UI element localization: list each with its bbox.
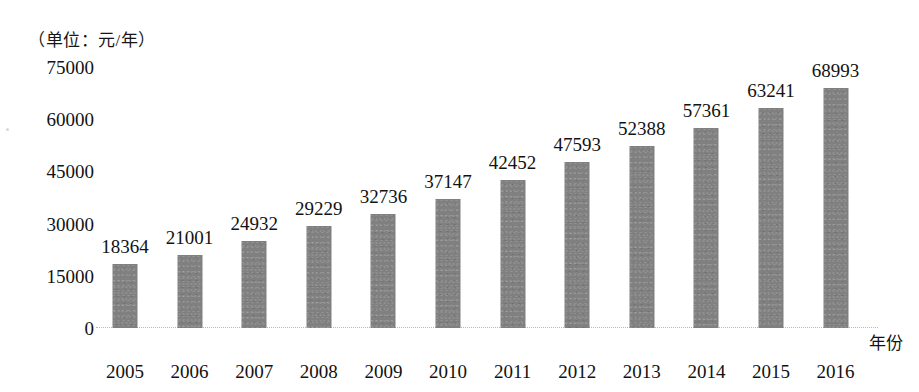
bar bbox=[242, 241, 267, 328]
bar-value-label: 37147 bbox=[424, 172, 472, 191]
scan-artifact bbox=[6, 128, 9, 131]
bar-group: 689932016 bbox=[804, 28, 868, 328]
bar-value-label: 52388 bbox=[618, 119, 666, 138]
bar-group: 523882013 bbox=[610, 28, 674, 328]
bar bbox=[371, 214, 396, 328]
y-axis-tick-label: 0 bbox=[22, 319, 94, 338]
bar-group: 475932012 bbox=[545, 28, 609, 328]
bar-group: 210012006 bbox=[158, 28, 222, 328]
bar bbox=[500, 180, 525, 328]
y-axis-tick-label: 60000 bbox=[22, 110, 94, 129]
x-axis-tick-label: 2007 bbox=[235, 362, 273, 381]
bar-group: 183642005 bbox=[93, 28, 157, 328]
y-axis-tick-label: 15000 bbox=[22, 267, 94, 286]
bar bbox=[565, 162, 590, 328]
bar bbox=[177, 255, 202, 328]
bar-group: 424522011 bbox=[481, 28, 545, 328]
bar-value-label: 32736 bbox=[360, 187, 408, 206]
x-axis-tick-label: 2005 bbox=[106, 362, 144, 381]
y-axis: 01500030000450006000075000 bbox=[22, 0, 94, 392]
y-axis-tick-label: 45000 bbox=[22, 162, 94, 181]
bar-value-label: 42452 bbox=[489, 153, 537, 172]
bar-value-label: 29229 bbox=[295, 199, 343, 218]
bar bbox=[629, 146, 654, 328]
bar-value-label: 63241 bbox=[747, 81, 795, 100]
bar-value-label: 47593 bbox=[553, 135, 601, 154]
bar-value-label: 18364 bbox=[101, 237, 149, 256]
bar-value-label: 57361 bbox=[683, 101, 731, 120]
bar bbox=[759, 108, 784, 328]
bar bbox=[694, 128, 719, 328]
x-axis-tick-label: 2009 bbox=[364, 362, 402, 381]
x-axis-tick-label: 2010 bbox=[429, 362, 467, 381]
x-axis-tick-label: 2011 bbox=[494, 362, 531, 381]
x-axis-tick-label: 2006 bbox=[171, 362, 209, 381]
bar-group: 632412015 bbox=[739, 28, 803, 328]
bar-value-label: 24932 bbox=[230, 214, 278, 233]
y-axis-tick-label: 75000 bbox=[22, 58, 94, 77]
bar-chart: （单位：元/年） 01500030000450006000075000 1836… bbox=[0, 0, 919, 392]
bar-group: 371472010 bbox=[416, 28, 480, 328]
bar-value-label: 68993 bbox=[812, 61, 860, 80]
x-axis-tick-label: 2014 bbox=[687, 362, 725, 381]
bar-group: 573612014 bbox=[674, 28, 738, 328]
y-axis-tick-label: 30000 bbox=[22, 215, 94, 234]
x-axis-tick-label: 2013 bbox=[623, 362, 661, 381]
plot-area: 01500030000450006000075000 1836420052100… bbox=[0, 0, 919, 392]
bar-group: 327362009 bbox=[351, 28, 415, 328]
bar bbox=[306, 226, 331, 328]
x-axis-tick-label: 2008 bbox=[300, 362, 338, 381]
bar-group: 292292008 bbox=[287, 28, 351, 328]
bar bbox=[823, 88, 848, 328]
x-axis-label: 年份 bbox=[869, 334, 903, 353]
x-axis-tick-label: 2012 bbox=[558, 362, 596, 381]
bar-value-label: 21001 bbox=[166, 228, 214, 247]
x-axis-tick-label: 2015 bbox=[752, 362, 790, 381]
bar bbox=[436, 199, 461, 328]
bar-group: 249322007 bbox=[222, 28, 286, 328]
x-axis-tick-label: 2016 bbox=[817, 362, 855, 381]
bar bbox=[113, 264, 138, 328]
